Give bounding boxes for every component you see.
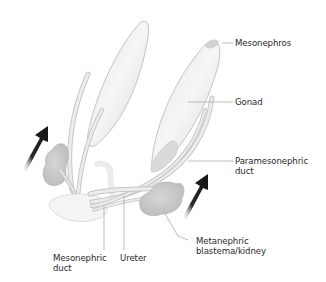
label-metanephric-blastema: Metanephric blastema/kidney	[196, 236, 266, 256]
label-mesonephric-duct: Mesonephric duct	[53, 253, 107, 273]
right-ascent-arrow	[182, 174, 208, 220]
urogenital-diagram: Mesonephros Gonad Paramesonephric duct M…	[0, 0, 326, 282]
left-mesonephros	[87, 21, 148, 146]
label-mesonephros: Mesonephros	[235, 38, 291, 48]
left-ascent-arrow	[22, 126, 48, 172]
label-ureter: Ureter	[120, 253, 147, 263]
label-paramesonephric-duct: Paramesonephric duct	[235, 156, 308, 176]
label-gonad: Gonad	[235, 97, 263, 107]
